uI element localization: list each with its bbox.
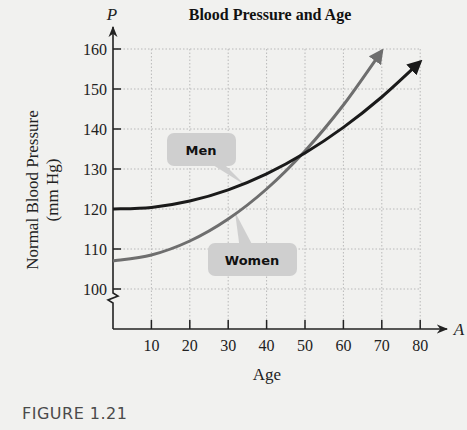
women-callout: Women	[208, 243, 297, 276]
y-axis-label-line1: Normal Blood Pressure	[23, 110, 42, 270]
men-callout: Men	[167, 133, 236, 166]
x-tick-label: 40	[259, 337, 275, 354]
y-tick-label: 100	[83, 281, 107, 298]
women-curve	[113, 51, 382, 261]
x-tick-label: 70	[374, 337, 390, 354]
y-tick-label: 160	[83, 41, 107, 58]
x-axis-variable: A	[453, 320, 465, 339]
x-tick-label: 20	[182, 337, 198, 354]
y-tick-label: 110	[84, 241, 107, 258]
x-tick-label: 10	[143, 337, 159, 354]
y-tick-label: 130	[83, 161, 107, 178]
x-axis-label: Age	[253, 365, 281, 384]
x-tick-label: 80	[412, 337, 428, 354]
x-tick-label: 30	[220, 337, 236, 354]
figure-caption: FIGURE 1.21	[22, 404, 127, 423]
y-axis	[108, 27, 118, 329]
men-label: Men	[185, 143, 216, 158]
y-axis-label-line2: (mm Hg)	[43, 159, 62, 222]
blood-pressure-chart: Blood Pressure and Age P 100110120130140…	[0, 0, 467, 400]
x-tick-label: 60	[335, 337, 351, 354]
y-axis-variable: P	[106, 5, 117, 24]
x-tick-label: 50	[297, 337, 313, 354]
y-tick-label: 150	[83, 81, 107, 98]
y-tick-label: 140	[83, 121, 107, 138]
y-tick-label: 120	[83, 201, 107, 218]
chart-title: Blood Pressure and Age	[189, 6, 352, 24]
women-label: Women	[225, 253, 279, 268]
